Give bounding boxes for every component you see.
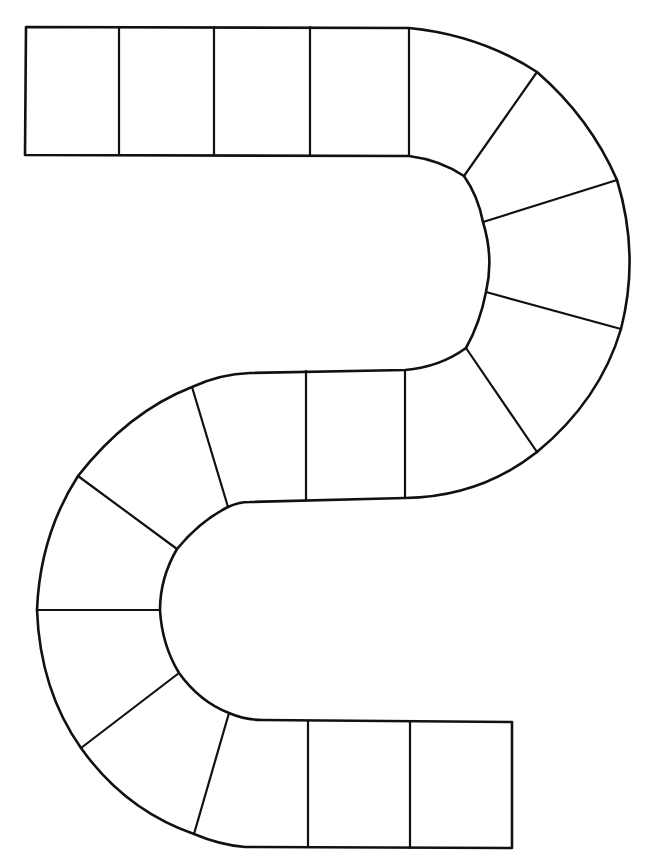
game-board [0, 0, 648, 867]
board-space-17[interactable] [308, 721, 410, 848]
board-space-3[interactable] [214, 27, 310, 156]
board-space-1[interactable] [25, 27, 119, 155]
board-space-2[interactable] [119, 27, 214, 155]
board-spaces [25, 27, 630, 848]
board-space-10[interactable] [306, 370, 405, 500]
board-space-4[interactable] [310, 27, 409, 156]
board-space-18[interactable] [410, 721, 512, 848]
